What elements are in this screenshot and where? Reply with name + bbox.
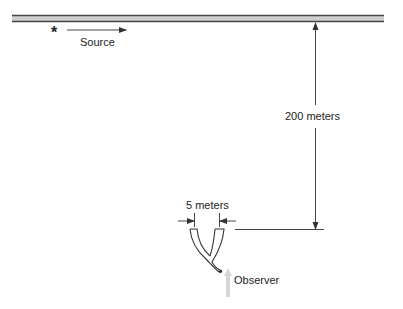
diagram-canvas: * Source 200 meters 5 meters Observer — [0, 0, 403, 309]
horn-width-label: 5 meters — [186, 199, 229, 211]
source-label: Source — [80, 36, 115, 48]
distance-label: 200 meters — [285, 110, 341, 122]
observer-ears-icon — [190, 229, 224, 272]
source-star-icon: * — [51, 24, 58, 41]
observer-direction-arrow — [224, 268, 232, 297]
source-path-band — [12, 15, 384, 22]
observer-label: Observer — [234, 274, 280, 286]
